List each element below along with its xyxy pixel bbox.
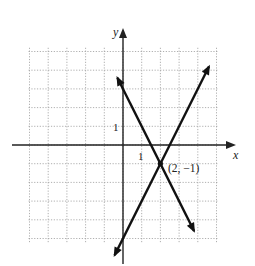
y-tick-label: 1	[113, 121, 119, 133]
graph-canvas: y x 1 1 (2, −1)	[0, 0, 255, 266]
plotted-lines	[114, 65, 210, 257]
intersection-point	[158, 161, 163, 166]
line-arrow-icon	[187, 222, 195, 233]
y-axis	[119, 28, 127, 264]
line-decreasing	[117, 78, 194, 231]
intersection-label: (2, −1)	[168, 162, 200, 175]
line-arrow-icon	[114, 246, 122, 257]
x-axis	[12, 141, 236, 149]
y-axis-arrow-icon	[119, 28, 127, 38]
y-axis-label: y	[112, 25, 119, 39]
x-axis-label: x	[232, 148, 239, 162]
line-increasing	[115, 66, 209, 255]
x-tick-label: 1	[138, 150, 144, 162]
